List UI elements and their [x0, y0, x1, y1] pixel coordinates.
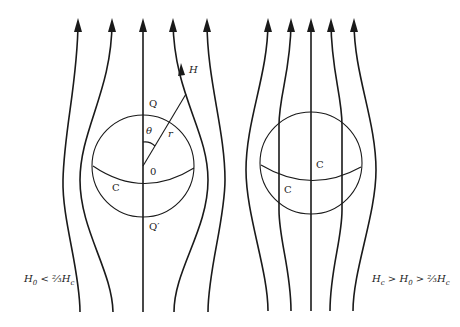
arrow-up-icon	[327, 18, 335, 32]
label-theta: θ	[146, 125, 152, 136]
field-line-outer-right	[353, 22, 376, 311]
field-line-diagram: Q θ r 0 C Q′ H H0 < ⅔Hc C C Hc > H0 > ⅔H…	[0, 0, 460, 327]
arrow-up-icon	[287, 18, 295, 32]
label-h: H	[188, 64, 198, 75]
label-q: Q	[149, 98, 157, 109]
condition-right: Hc > H0 > ⅔Hc	[371, 273, 450, 287]
right-panel: C C Hc > H0 > ⅔Hc	[246, 18, 450, 311]
label-origin: 0	[150, 166, 156, 177]
label-c-upper: C	[316, 159, 324, 170]
label-q-prime: Q′	[149, 221, 160, 232]
arrow-up-icon	[74, 18, 82, 32]
field-line-inner-left	[279, 22, 291, 311]
arrow-up-icon	[139, 18, 147, 32]
field-line-outer-left	[246, 22, 268, 311]
arrow-up-icon	[264, 18, 272, 32]
field-line-inner-left	[80, 22, 113, 312]
arrow-icons	[264, 18, 358, 32]
arrow-up-icon	[350, 18, 358, 32]
arrow-up-icon	[307, 18, 315, 32]
condition-left: H0 < ⅔Hc	[23, 273, 74, 287]
diagram-canvas: Q θ r 0 C Q′ H H0 < ⅔Hc C C Hc > H0 > ⅔H…	[0, 0, 460, 327]
arrow-up-icon	[169, 18, 177, 32]
field-line-inner-right	[330, 22, 342, 311]
left-panel: Q θ r 0 C Q′ H H0 < ⅔Hc	[23, 18, 225, 312]
field-line-outer-left	[63, 22, 80, 312]
arrow-up-icon	[203, 18, 211, 32]
label-r: r	[168, 128, 174, 139]
field-line-outer-right	[207, 22, 225, 312]
label-c: C	[112, 182, 120, 193]
arrow-up-icon	[108, 18, 116, 32]
label-c-lower: C	[284, 184, 292, 195]
theta-arc	[143, 142, 155, 146]
